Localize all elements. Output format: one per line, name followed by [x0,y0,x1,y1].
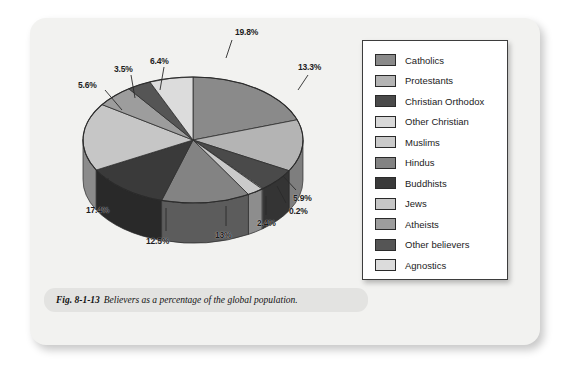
legend-item[interactable]: Protestants [363,71,507,92]
legend-item-label: Jews [405,198,427,209]
legend-item[interactable]: Hindus [363,153,507,174]
legend-color-swatch [375,239,396,251]
figure-caption: Fig. 8-1-13 Believers as a percentage of… [44,288,368,312]
chart-legend: CatholicsProtestantsChristian OrthodoxOt… [362,40,508,280]
legend-item-label: Agnostics [405,260,446,271]
legend-color-swatch [375,177,396,189]
legend-item-label: Christian Orthodox [405,96,484,107]
legend-item-label: Buddhists [405,178,447,189]
legend-item-label: Catholics [405,55,444,66]
legend-item-label: Atheists [405,219,439,230]
legend-color-swatch [375,198,396,210]
legend-item-label: Other Christian [405,116,469,127]
pie-value-label: 5.6% [78,80,97,90]
legend-color-swatch [375,54,396,66]
pie-value-label: 6.4% [150,56,169,66]
legend-item-label: Protestants [405,75,453,86]
pie-value-label: 12.5% [146,236,169,246]
pie-value-label: 19.8% [235,27,258,37]
legend-item[interactable]: Catholics [363,50,507,71]
pie-value-label: 13.3% [298,62,321,72]
caption-description: Believers as a percentage of the global … [104,295,298,305]
pie-value-label: 13% [215,230,231,240]
legend-item[interactable]: Agnostics [363,255,507,276]
legend-color-swatch [375,218,396,230]
legend-color-swatch [375,95,396,107]
pie-value-label: 5.9% [293,193,312,203]
pie-value-label: 2.4% [257,218,276,228]
legend-item-label: Hindus [405,157,435,168]
pie-value-label: 3.5% [114,64,133,74]
legend-color-swatch [375,259,396,271]
legend-item-label: Muslims [405,137,440,148]
legend-item[interactable]: Buddhists [363,173,507,194]
legend-item[interactable]: Other Christian [363,112,507,133]
pie-value-label: 17.4% [86,205,109,215]
legend-item[interactable]: Muslims [363,132,507,153]
pie-value-label: 0.2% [289,206,308,216]
pie-chart: 19.8%13.3%5.9%0.2%2.4%13%12.5%17.4%5.6%3… [30,18,360,280]
label-leader-line [226,40,232,58]
legend-color-swatch [375,157,396,169]
figure-card: 19.8%13.3%5.9%0.2%2.4%13%12.5%17.4%5.6%3… [30,18,540,345]
legend-item[interactable]: Atheists [363,214,507,235]
legend-color-swatch [375,75,396,87]
legend-color-swatch [375,116,396,128]
legend-item[interactable]: Christian Orthodox [363,91,507,112]
label-leader-line [298,75,308,90]
legend-item[interactable]: Jews [363,194,507,215]
legend-color-swatch [375,136,396,148]
pie-chart-svg [30,18,360,280]
caption-figure-number: Fig. 8-1-13 [56,295,100,305]
legend-item-label: Other believers [405,239,469,250]
legend-item[interactable]: Other believers [363,235,507,256]
